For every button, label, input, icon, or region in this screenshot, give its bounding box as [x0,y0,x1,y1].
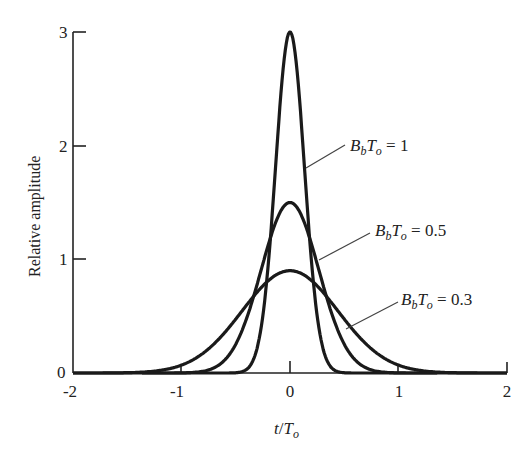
annotation-bt-1: BbTo = 1 [350,136,408,158]
x-axis-label: t/To [274,419,299,441]
y-tick-labels: 3 2 1 0 [57,23,68,382]
xtick-1: 1 [395,382,404,401]
y-axis-label: Relative amplitude [26,156,44,277]
curve-series-2 [73,271,507,373]
ytick-0: 0 [57,363,66,382]
annotation-bt-0.3: BbTo = 0.3 [401,290,472,312]
chart: 3 2 1 0 -2 -1 0 1 2 Relative amplitude t… [0,0,530,451]
xtick-0: 0 [286,382,295,401]
xtick-neg2: -2 [63,382,77,401]
ytick-3: 3 [59,23,68,42]
xtick-neg1: -1 [170,382,184,401]
ytick-1: 1 [59,250,68,269]
annotation-bt-0.5: BbTo = 0.5 [375,221,446,243]
x-tick-labels: -2 -1 0 1 2 [63,382,511,401]
ytick-2: 2 [59,137,68,156]
curves [73,32,507,373]
xtick-2: 2 [503,382,512,401]
